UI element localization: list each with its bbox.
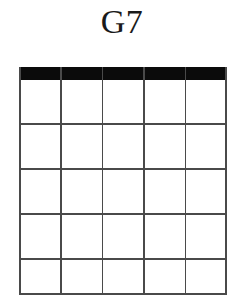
- nut-bar: [19, 67, 227, 80]
- fretboard-grid: [19, 67, 227, 295]
- chord-diagram: G7: [0, 0, 244, 304]
- chord-name-title: G7: [0, 2, 244, 42]
